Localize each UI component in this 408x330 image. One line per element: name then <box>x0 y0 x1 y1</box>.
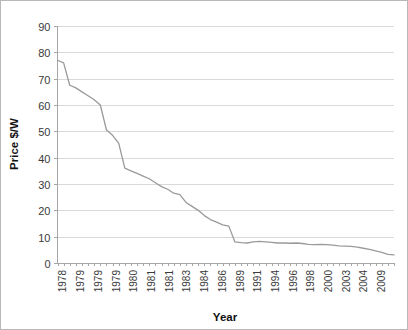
x-tick-label: 1979 <box>111 270 122 293</box>
x-tick-label: 1991 <box>252 270 263 293</box>
x-tick-label: 1989 <box>235 270 246 293</box>
x-tick-label: 2000 <box>323 270 334 293</box>
y-tick-label: 0 <box>44 258 50 270</box>
price-series-line <box>58 60 395 255</box>
y-tick-label: 30 <box>38 179 50 191</box>
x-tick-label: 1996 <box>288 270 299 293</box>
x-tick-label: 1994 <box>270 270 281 293</box>
y-axis-ticks: 0102030405060708090 <box>38 21 57 270</box>
x-axis-title: Year <box>213 311 238 323</box>
y-tick-label: 50 <box>38 126 50 138</box>
x-axis-tick-labels: 1978197919791979198019811981198319841986… <box>57 270 387 293</box>
x-tick-label: 1981 <box>146 270 157 293</box>
x-tick-label: 1984 <box>199 270 210 293</box>
y-axis-title: Price $/W <box>8 118 20 170</box>
chart-container: 0102030405060708090 19781979197919791980… <box>0 0 408 330</box>
x-tick-label: 2004 <box>358 270 369 293</box>
price-vs-year-line-chart: 0102030405060708090 19781979197919791980… <box>1 1 408 330</box>
y-tick-label: 60 <box>38 100 50 112</box>
x-tick-label: 1998 <box>305 270 316 293</box>
x-tick-label: 1979 <box>75 270 86 293</box>
x-tick-label: 1979 <box>93 270 104 293</box>
y-tick-label: 40 <box>38 153 50 165</box>
y-tick-label: 70 <box>38 74 50 86</box>
x-tick-label: 2003 <box>341 270 352 293</box>
x-tick-label: 1986 <box>217 270 228 293</box>
x-tick-label: 1981 <box>164 270 175 293</box>
y-tick-label: 10 <box>38 232 50 244</box>
x-tick-label: 2009 <box>376 270 387 293</box>
y-tick-label: 20 <box>38 205 50 217</box>
y-tick-label: 90 <box>38 21 50 33</box>
x-tick-label: 1983 <box>181 270 192 293</box>
x-tick-label: 1978 <box>57 270 68 293</box>
y-tick-label: 80 <box>38 47 50 59</box>
x-tick-label: 1980 <box>128 270 139 293</box>
